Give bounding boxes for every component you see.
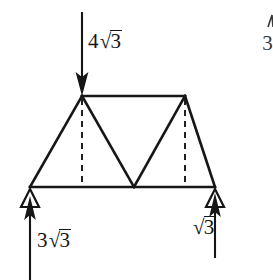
left-reaction-coefficient: 3	[37, 228, 48, 252]
right-reaction-label: √3	[192, 216, 215, 238]
corner-fragment-stroke	[268, 15, 273, 27]
member-left-diagonal	[30, 96, 82, 187]
corner-fragment-label: 3	[262, 33, 273, 54]
applied-load-radicand: 3	[110, 30, 122, 52]
right-reaction-radical-group: √3	[193, 216, 215, 238]
applied-load-coefficient: 4	[88, 29, 99, 53]
truss-members	[30, 96, 215, 187]
applied-load-radical-group: √3	[100, 30, 122, 52]
left-reaction-radical-group: √3	[49, 229, 71, 251]
member-right-diagonal	[185, 96, 215, 187]
member-web-diagonal-left	[82, 96, 134, 187]
dashed-vertical-members	[82, 99, 185, 186]
corner-fragment-mark	[268, 15, 273, 27]
left-reaction-radicand: 3	[59, 229, 71, 251]
applied-load-arrow	[76, 12, 89, 96]
truss-figure: 4√3 3√3 √3 3	[0, 0, 273, 280]
left-reaction-arrow	[24, 196, 36, 280]
member-web-diagonal-right	[134, 96, 185, 187]
right-reaction-radicand: 3	[204, 216, 216, 238]
applied-load-label: 4√3	[88, 30, 122, 52]
left-reaction-label: 3√3	[37, 229, 71, 251]
